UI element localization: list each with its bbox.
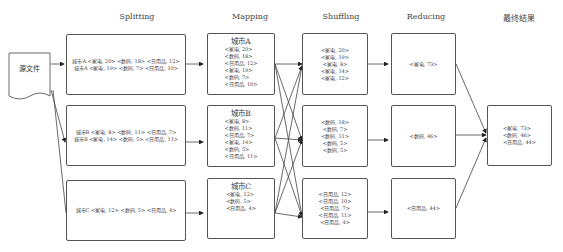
shuffle-item: <日用品, 11>	[319, 212, 352, 219]
reducing-box-digital: <数码, 46>	[391, 105, 456, 167]
map-item: <数码, 5>	[226, 198, 256, 205]
reduce-item: <数码, 46>	[410, 133, 438, 140]
map-item: <家电, 14>	[225, 139, 258, 146]
shuffle-item: <家电, 14>	[321, 68, 349, 75]
final-item: <日用品, 44>	[503, 139, 536, 146]
shuffle-item: <日用品, 10>	[319, 198, 352, 205]
splitting-box-a: 城市A <家电, 20> <数码, 18> <日用品, 12> 城市A <家电,…	[66, 34, 186, 95]
mapping-box-a: 城市A <家电, 20> <数码, 18> <日用品, 12> <家电, 19>…	[207, 33, 275, 95]
shuffle-item: <数码, 5>	[323, 147, 348, 154]
map-item: <数码, 5>	[225, 146, 258, 153]
reducing-box-daily: <日用品, 44>	[391, 178, 456, 239]
shuffle-item: <数码, 18>	[321, 119, 349, 126]
shuffle-item: <数码, 7>	[323, 126, 348, 133]
map-item: <数码, 18>	[225, 53, 258, 60]
splitting-line: 城市A <家电, 20> <数码, 18> <日用品, 12>	[72, 58, 179, 65]
shuffle-item: <家电, 12>	[321, 75, 349, 82]
source-file: 源文件	[9, 63, 50, 73]
splitting-line: 城市A <家电, 19> <数码, 7> <日用品, 10>	[74, 65, 178, 72]
final-item: <家电, 73>	[503, 125, 536, 132]
map-item: <家电, 12>	[226, 191, 256, 198]
map-item: <数码, 11>	[225, 125, 258, 132]
shuffle-item: <数码, 11>	[321, 133, 349, 140]
reduce-item: <日用品, 44>	[407, 205, 440, 212]
map-item: <日用品, 10>	[225, 81, 258, 88]
map-item: <家电, 19>	[225, 67, 258, 74]
shuffle-item: <家电, 19>	[321, 54, 349, 61]
splitting-line: 城市C <家电, 12> <数码, 5> <日用品, 4>	[76, 207, 177, 214]
shuffling-box-daily: <日用品, 12> <日用品, 10> <日用品, 7> <日用品, 11> <…	[302, 178, 368, 239]
shuffling-box-appliances: <家电, 20> <家电, 19> <家电, 8> <家电, 14> <家电, …	[302, 33, 368, 95]
splitting-line: 城市B <家电, 8> <数码, 11> <日用品, 7>	[76, 129, 177, 136]
map-item: <日用品, 7>	[225, 132, 258, 139]
shuffle-item: <日用品, 7>	[320, 205, 350, 212]
splitting-box-b: 城市B <家电, 8> <数码, 11> <日用品, 7> 城市B <家电, 1…	[66, 105, 186, 166]
reducing-box-appliances: <家电, 73>	[391, 33, 456, 95]
mapping-box-b: 城市B <家电, 8> <数码, 11> <日用品, 7> <家电, 14> <…	[207, 105, 275, 167]
city-title: 城市C	[231, 182, 251, 191]
map-item: <家电, 20>	[225, 46, 258, 53]
final-item: <数码, 46>	[503, 132, 536, 139]
final-result-box: <家电, 73> <数码, 46> <日用品, 44>	[487, 105, 552, 166]
city-title: 城市B	[231, 109, 251, 118]
map-item: <日用品, 4>	[226, 205, 256, 212]
shuffle-item: <家电, 8>	[323, 61, 348, 68]
splitting-line: 城市B <家电, 14> <数码, 5> <日用品, 11>	[74, 136, 178, 143]
shuffle-item: <数码, 5>	[323, 140, 348, 147]
mapping-box-c: 城市C <家电, 12> <数码, 5> <日用品, 4>	[207, 178, 275, 239]
map-item: <日用品, 11>	[225, 153, 258, 160]
shuffle-item: <家电, 20>	[321, 47, 349, 54]
shuffle-item: <日用品, 4>	[320, 219, 350, 226]
splitting-box-c: 城市C <家电, 12> <数码, 5> <日用品, 4>	[66, 180, 186, 241]
shuffle-item: <日用品, 12>	[319, 191, 352, 198]
map-item: <家电, 8>	[225, 118, 258, 125]
city-title: 城市A	[231, 37, 250, 46]
map-item: <数码, 7>	[225, 74, 258, 81]
shuffling-box-digital: <数码, 18> <数码, 7> <数码, 11> <数码, 5> <数码, 5…	[302, 105, 368, 167]
map-item: <日用品, 12>	[225, 60, 258, 67]
reduce-item: <家电, 73>	[410, 61, 438, 68]
